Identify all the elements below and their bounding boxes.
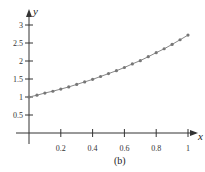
data-point xyxy=(178,38,181,41)
data-point xyxy=(67,85,70,88)
line-chart: 0.20.40.60.810.511.522.53 x y (b) xyxy=(0,0,205,172)
x-tick-label: 0.4 xyxy=(88,144,98,153)
data-point xyxy=(35,94,38,97)
series-line xyxy=(29,35,188,97)
y-tick-label: 3 xyxy=(19,21,23,30)
data-point xyxy=(155,51,158,54)
y-tick-label: 2.5 xyxy=(13,39,23,48)
data-point xyxy=(51,90,54,93)
y-tick-label: 1.5 xyxy=(13,75,23,84)
axes xyxy=(16,9,198,144)
data-point xyxy=(59,87,62,90)
data-point xyxy=(171,43,174,46)
figure-caption: (b) xyxy=(114,155,126,167)
y-tick-label: 1 xyxy=(19,93,23,102)
data-point xyxy=(186,33,189,36)
x-tick-label: 0.2 xyxy=(56,144,66,153)
y-axis-label: y xyxy=(32,5,38,17)
y-tick-label: 0.5 xyxy=(13,111,23,120)
x-axis-arrow-icon xyxy=(190,130,198,136)
x-axis-label: x xyxy=(197,130,203,142)
data-point xyxy=(75,83,78,86)
data-point xyxy=(43,91,46,94)
x-tick-label: 0.8 xyxy=(151,144,161,153)
data-point xyxy=(139,59,142,62)
y-axis-arrow-icon xyxy=(26,9,32,17)
data-point xyxy=(147,55,150,58)
data-point xyxy=(123,66,126,69)
data-series xyxy=(27,33,189,98)
x-tick-label: 0.6 xyxy=(119,144,129,153)
x-tick-label: 1 xyxy=(186,144,190,153)
data-point xyxy=(107,72,110,75)
data-point xyxy=(27,95,30,98)
data-point xyxy=(115,69,118,72)
data-point xyxy=(99,75,102,78)
data-point xyxy=(91,78,94,81)
data-point xyxy=(163,47,166,50)
data-point xyxy=(131,62,134,65)
y-tick-label: 2 xyxy=(19,57,23,66)
data-point xyxy=(83,80,86,83)
